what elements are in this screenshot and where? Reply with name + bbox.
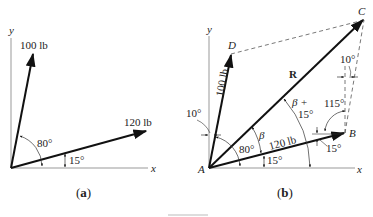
angle-beta-plus-label-line2: 15° [298,108,313,120]
angle-80-label-a: 80° [37,137,52,149]
resultant-R-label: R [289,68,298,80]
y-axis-label-a: y [8,24,14,36]
angle-10-right-leader [349,66,351,78]
angle-10-left-label: 10° [186,107,201,119]
force-100lb-label-b: 100 lb [213,67,230,97]
angle-15-label-a: 15° [69,154,84,166]
point-B-label: B [349,127,356,139]
dashed-side-BC [345,20,364,133]
force-100lb-label-a: 100 lb [20,39,48,51]
angle-10-left-leader [197,120,210,133]
point-A-label: A [197,163,205,175]
figure-a: y x 100 lb 120 lb 80° 15° (a) [8,24,156,200]
force-100lb-arrow-a [11,54,33,168]
angle-15-bottom-label: 15° [267,154,282,166]
cutoff-caption-fragment [168,214,208,216]
caption-a: (a) [76,185,91,200]
angle-arc-115 [325,111,345,131]
point-D-label: D [227,39,236,51]
angle-80-label-b: 80° [239,143,254,155]
x-axis-label-a: x [150,162,156,174]
angle-15-at-B-label: 15° [326,142,341,154]
angle-beta-label: β [258,129,265,141]
force-diagram: y x 100 lb 120 lb 80° 15° (a) y x A B C … [0,0,373,217]
angle-beta-plus-label-line1: β + [291,96,308,108]
caption-b: (b) [277,185,293,200]
x-axis-label-b: x [356,163,362,175]
point-C-label: C [358,5,366,17]
angle-115-label: 115° [324,97,345,109]
force-120lb-label-a: 120 lb [124,116,152,128]
y-axis-label-b: y [206,23,212,35]
figure-b: y x A B C D R 100 lb 120 lb 10° 80° 15° … [186,5,366,200]
angle-10-right-label: 10° [340,53,355,65]
